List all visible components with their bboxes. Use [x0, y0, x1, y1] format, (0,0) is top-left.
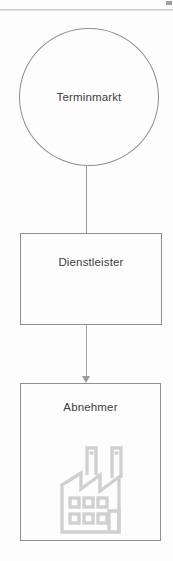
node-terminmarkt-label: Terminmarkt	[20, 91, 158, 103]
node-abnehmer: Abnehmer	[20, 383, 161, 541]
connector-arrowhead-icon	[82, 376, 90, 383]
node-dienstleister-label: Dienstleister	[21, 256, 161, 268]
factory-icon	[57, 444, 139, 534]
node-abnehmer-label: Abnehmer	[21, 401, 160, 413]
connector-dienstleister-to-abnehmer	[86, 325, 87, 378]
scan-artifact-mark	[166, 1, 172, 5]
node-terminmarkt: Terminmarkt	[19, 28, 159, 166]
top-horizontal-rule-shadow	[0, 10, 173, 11]
node-dienstleister: Dienstleister	[20, 233, 162, 325]
diagram-canvas: Terminmarkt Dienstleister Abnehmer	[0, 0, 173, 561]
connector-terminmarkt-to-dienstleister	[86, 165, 87, 234]
